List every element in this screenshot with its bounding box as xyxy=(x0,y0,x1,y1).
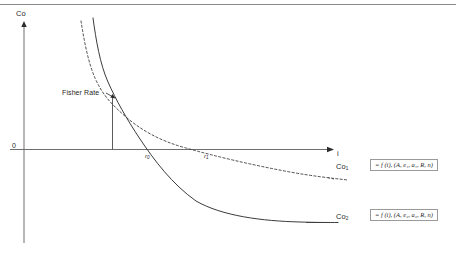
legend-box-co2: = f (i), (A, e₂, a₂, R, n) xyxy=(370,209,438,221)
figure-container: Co i 0 Fisher Rate r0 r1 Co1 Co2 = f (i)… xyxy=(0,0,456,260)
x-tick-r0-sub: 0 xyxy=(147,155,150,160)
curve-tag-co2: Co2 xyxy=(336,213,348,221)
x-axis-label: i xyxy=(337,150,339,158)
origin-label: 0 xyxy=(12,142,16,149)
y-axis-label: Co xyxy=(16,10,26,18)
x-tick-r0: r0 xyxy=(145,153,150,160)
legend-box-co1: = f (i), (A, e₁, a₁, R, n) xyxy=(370,159,438,171)
x-tick-r1: r1 xyxy=(204,153,209,160)
curve-co1-dashed xyxy=(81,21,348,180)
x-axis xyxy=(10,147,334,152)
curve-tag-co1: Co1 xyxy=(336,163,348,171)
fisher-rate-label: Fisher Rate xyxy=(62,89,99,96)
curve-tag-co1-base: Co xyxy=(336,162,346,171)
x-tick-r1-sub: 1 xyxy=(206,155,209,160)
curve-tag-co2-base: Co xyxy=(336,212,346,221)
y-axis xyxy=(21,21,26,243)
